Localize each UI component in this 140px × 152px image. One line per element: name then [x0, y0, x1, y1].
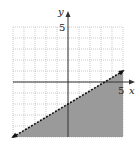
x-tick-label: 5: [118, 85, 124, 96]
y-tick-label: 5: [59, 22, 65, 33]
x-axis-arrow-icon: [129, 80, 135, 85]
x-axis-label: x: [129, 85, 135, 96]
inequality-graph: y 5 5 x: [0, 0, 140, 152]
y-axis-label: y: [57, 6, 64, 17]
y-axis-arrow-icon: [66, 11, 71, 17]
